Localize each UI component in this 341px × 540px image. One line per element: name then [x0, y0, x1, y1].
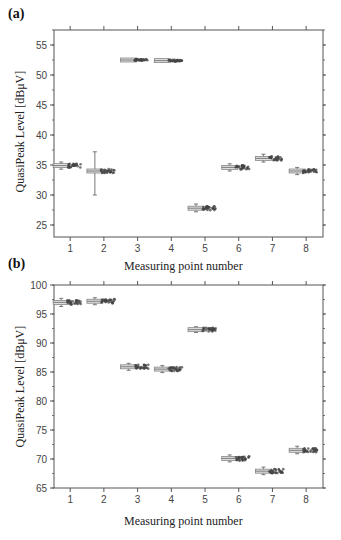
- data-point: [70, 303, 73, 306]
- data-point: [175, 367, 178, 370]
- data-point: [109, 171, 112, 174]
- x-tick-label: 2: [101, 494, 107, 505]
- data-point: [101, 300, 104, 303]
- data-point: [135, 59, 138, 62]
- data-point: [167, 367, 170, 370]
- x-tick-label: 6: [236, 243, 242, 254]
- data-point: [275, 472, 278, 475]
- data-point: [211, 328, 214, 331]
- chart-canvas: 2530354045505512345678657075808590951001…: [0, 0, 341, 540]
- data-point: [236, 165, 239, 168]
- data-point: [112, 169, 115, 172]
- data-point: [309, 449, 312, 452]
- data-point: [147, 363, 150, 366]
- data-point: [79, 166, 82, 169]
- x-tick-label: 1: [67, 494, 73, 505]
- data-point: [208, 206, 211, 209]
- x-tick-label: 7: [270, 243, 276, 254]
- data-point: [135, 365, 138, 368]
- data-point: [69, 300, 72, 303]
- data-point: [202, 328, 205, 331]
- data-point: [71, 300, 74, 303]
- data-point: [205, 329, 208, 332]
- data-point: [209, 209, 212, 212]
- data-point: [68, 163, 71, 166]
- data-point: [271, 472, 274, 475]
- data-point: [72, 163, 75, 166]
- data-point: [139, 367, 142, 370]
- y-tick-label: 40: [36, 130, 48, 141]
- data-point: [277, 157, 280, 160]
- data-point: [248, 455, 251, 458]
- data-point: [307, 451, 310, 454]
- data-point: [77, 165, 80, 168]
- y-tick-label: 25: [36, 220, 48, 231]
- data-point: [314, 169, 317, 172]
- data-point: [205, 206, 208, 209]
- data-point: [170, 369, 173, 372]
- data-point: [238, 456, 241, 459]
- data-point: [146, 59, 149, 62]
- data-point: [172, 59, 175, 62]
- data-point: [238, 459, 241, 462]
- y-tick-label: 65: [36, 483, 48, 494]
- data-point: [242, 456, 245, 459]
- x-tick-label: 7: [270, 494, 276, 505]
- data-point: [100, 168, 103, 171]
- data-point: [307, 447, 310, 450]
- data-point: [279, 470, 282, 473]
- y-tick-label: 45: [36, 100, 48, 111]
- y-tick-label: 30: [36, 190, 48, 201]
- data-point: [302, 172, 305, 175]
- plot-frame: [54, 285, 323, 488]
- data-point: [180, 59, 183, 62]
- y-tick-label: 80: [36, 396, 48, 407]
- x-tick-label: 5: [202, 243, 208, 254]
- data-point: [243, 164, 246, 167]
- x-tick-label: 1: [67, 243, 73, 254]
- data-point: [79, 303, 82, 306]
- data-point: [243, 459, 246, 462]
- x-tick-label: 4: [169, 494, 175, 505]
- data-point: [236, 458, 239, 461]
- data-point: [67, 166, 70, 169]
- data-point: [175, 59, 178, 62]
- data-point: [171, 366, 174, 369]
- y-tick-label: 50: [36, 70, 48, 81]
- data-point: [240, 167, 243, 170]
- data-point: [268, 470, 271, 473]
- y-tick-label: 55: [36, 40, 48, 51]
- data-point: [143, 59, 146, 62]
- data-point: [77, 300, 80, 303]
- data-point: [214, 207, 217, 210]
- x-tick-label: 3: [135, 243, 141, 254]
- data-point: [277, 468, 280, 471]
- data-point: [176, 370, 179, 373]
- data-point: [113, 171, 116, 174]
- data-point: [108, 298, 111, 301]
- data-point: [311, 169, 314, 172]
- data-point: [279, 156, 282, 159]
- data-point: [203, 208, 206, 211]
- y-tick-label: 95: [36, 309, 48, 320]
- x-tick-label: 3: [135, 494, 141, 505]
- data-point: [145, 367, 148, 370]
- y-tick-label: 85: [36, 367, 48, 378]
- data-point: [208, 328, 211, 331]
- y-tick-label: 90: [36, 338, 48, 349]
- x-tick-label: 2: [101, 243, 107, 254]
- y-tick-label: 70: [36, 454, 48, 465]
- data-point: [212, 208, 215, 211]
- x-tick-label: 6: [236, 494, 242, 505]
- data-point: [270, 157, 273, 160]
- data-point: [214, 329, 217, 332]
- data-point: [205, 327, 208, 330]
- data-point: [147, 368, 150, 371]
- data-point: [303, 447, 306, 450]
- data-point: [143, 363, 146, 366]
- x-tick-label: 4: [169, 243, 175, 254]
- x-tick-label: 8: [303, 494, 309, 505]
- data-point: [179, 368, 182, 371]
- x-tick-label: 5: [202, 494, 208, 505]
- data-point: [273, 468, 276, 471]
